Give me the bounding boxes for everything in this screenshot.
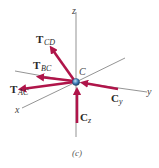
- arrow-t-ac: [22, 82, 74, 89]
- arrow-t-cd: [52, 49, 74, 80]
- figure-caption: (c): [72, 148, 82, 158]
- arrow-t-bc: [40, 77, 74, 81]
- svg-text:C: C: [111, 92, 119, 104]
- svg-text:AC: AC: [17, 88, 29, 97]
- svg-text:T: T: [36, 33, 44, 45]
- joint-c: [72, 78, 79, 85]
- arrow-c-y: [84, 83, 118, 89]
- label-c-z: C z: [80, 111, 92, 125]
- svg-text:CD: CD: [44, 38, 55, 47]
- x-axis-label: x: [14, 104, 20, 115]
- svg-text:C: C: [80, 111, 88, 123]
- svg-text:y: y: [118, 97, 123, 106]
- svg-text:z: z: [87, 116, 92, 125]
- svg-text:BC: BC: [41, 64, 52, 73]
- label-t-ac: T AC: [10, 83, 29, 97]
- label-t-bc: T BC: [33, 59, 52, 73]
- z-axis-label: z: [71, 5, 76, 16]
- point-c-label: C: [79, 66, 86, 77]
- label-t-cd: T CD: [36, 33, 55, 47]
- svg-text:T: T: [33, 59, 41, 71]
- svg-text:T: T: [10, 83, 18, 95]
- y-axis-label: y: [146, 86, 152, 97]
- label-c-y: C y: [111, 92, 123, 106]
- free-body-diagram: z y x C T CD T BC T AC C y C z (c): [0, 0, 159, 168]
